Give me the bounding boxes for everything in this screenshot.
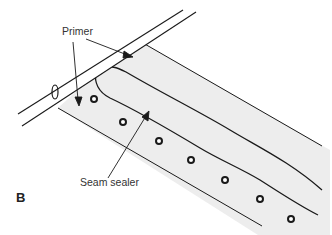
spot-weld [288, 216, 294, 222]
spot-weld [156, 138, 162, 144]
spot-weld [222, 177, 228, 183]
spot-weld [120, 119, 126, 125]
spot-weld [257, 196, 263, 202]
seam-sealer-label: Seam sealer [80, 176, 139, 188]
primer-label: Primer [62, 25, 93, 37]
spot-weld [91, 96, 97, 102]
spot-weld [188, 157, 194, 163]
figure-label: B [16, 190, 25, 205]
diagram-canvas: Primer Seam sealer B [0, 0, 332, 235]
diagram-illustration [0, 0, 332, 235]
